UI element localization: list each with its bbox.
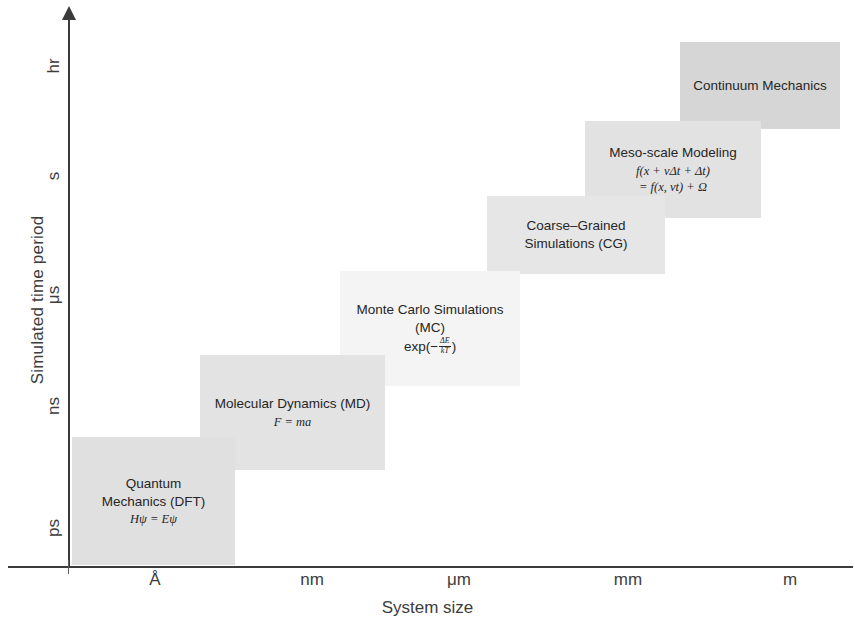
meso-scale-modeling-equation: f(x + vΔt + Δt) = f(x, vt) + Ω <box>636 163 710 195</box>
x-tick-mm: mm <box>598 570 658 590</box>
y-tick-hr: hr <box>44 46 64 86</box>
y-tick-ns: ns <box>44 386 64 426</box>
monte-carlo-title: Monte Carlo Simulations (MC) <box>356 301 503 337</box>
molecular-dynamics-equation: F = ma <box>274 414 312 430</box>
quantum-mechanics-title: Quantum Mechanics (DFT) <box>102 475 206 511</box>
x-tick-m: m <box>760 570 820 590</box>
x-tick-angstrom: Å <box>125 570 185 590</box>
x-axis-title: System size <box>0 598 855 618</box>
molecular-dynamics-title: Molecular Dynamics (MD) <box>215 395 370 413</box>
monte-carlo-equation-denominator: kT <box>439 347 451 355</box>
y-tick-s: s <box>44 156 64 196</box>
x-tick-mark-origin <box>68 560 69 574</box>
monte-carlo-equation-prefix: exp(− <box>404 339 438 354</box>
meso-scale-modeling-title: Meso-scale Modeling <box>609 144 737 162</box>
monte-carlo-equation-suffix: ) <box>452 339 457 354</box>
x-tick-um: μm <box>429 570 489 590</box>
multiscale-modeling-diagram: Simulated time period System size ps ns … <box>0 0 855 620</box>
y-tick-ps: ps <box>44 508 64 548</box>
y-axis-line <box>68 18 70 567</box>
scale-box-continuum-mechanics: Continuum Mechanics <box>680 42 840 129</box>
scale-box-quantum-mechanics: Quantum Mechanics (DFT) Hψ = Eψ <box>72 437 235 565</box>
x-tick-nm: nm <box>282 570 342 590</box>
y-tick-us: μs <box>44 275 64 315</box>
continuum-mechanics-title: Continuum Mechanics <box>693 77 827 95</box>
quantum-mechanics-equation: Hψ = Eψ <box>130 511 177 527</box>
coarse-grained-title: Coarse–Grained Simulations (CG) <box>525 217 628 253</box>
x-axis-line <box>8 566 853 568</box>
monte-carlo-equation: exp(−ΔEkT) <box>404 338 456 356</box>
scale-box-coarse-grained: Coarse–Grained Simulations (CG) <box>487 196 665 274</box>
monte-carlo-equation-fraction: ΔEkT <box>439 337 451 355</box>
